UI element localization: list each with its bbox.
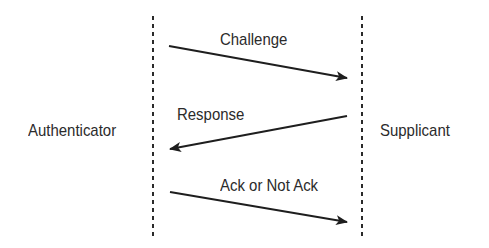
challenge-arrow [169, 46, 347, 78]
response-label: Response [177, 105, 244, 125]
supplicant-label: Supplicant [380, 121, 450, 141]
authenticator-label: Authenticator [28, 121, 116, 141]
ack-arrow [170, 192, 347, 222]
ack-label: Ack or Not Ack [220, 176, 318, 196]
challenge-label: Challenge [220, 30, 287, 50]
